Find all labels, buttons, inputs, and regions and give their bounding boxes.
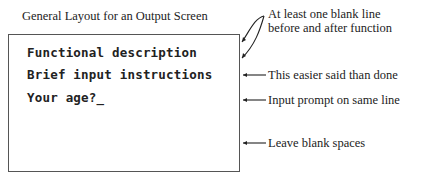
note-blank-line: At least one blank line before and after… [268, 7, 392, 35]
note-easier-said: This easier said than done [268, 68, 398, 82]
note-input-prompt: Input prompt on same line [268, 93, 400, 107]
note-blank-line-1: At least one blank line [268, 7, 392, 21]
note-blank-spaces: Leave blank spaces [268, 136, 365, 150]
note-blank-line-2: before and after function [268, 21, 392, 35]
